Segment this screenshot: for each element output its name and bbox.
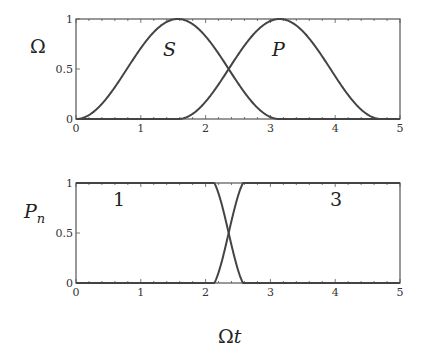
curve-P xyxy=(76,19,400,119)
y-tick-label: 0 xyxy=(66,113,73,126)
y-tick-label: 0 xyxy=(66,277,73,290)
y-tick-label: 0.5 xyxy=(56,227,74,240)
y-tick-label: 0.5 xyxy=(56,63,74,76)
x-axis-label: Ωt xyxy=(218,325,242,347)
bottom-y-axis-label: Pn xyxy=(23,200,45,226)
annotation-1: 1 xyxy=(113,188,125,210)
x-tick-label: 5 xyxy=(397,122,404,135)
top-plot-frame xyxy=(76,19,400,119)
annotation-3: 3 xyxy=(330,188,342,210)
x-tick-label: 5 xyxy=(397,286,404,299)
bottom-panel: 012345 10.50 Pn 1 3 Ωt xyxy=(23,177,404,347)
x-axis-label-omega: Ω xyxy=(218,325,234,347)
x-tick-label: 3 xyxy=(267,286,274,299)
x-axis-label-t: t xyxy=(234,325,242,347)
top-panel: 012345 10.50 Ω S P xyxy=(30,13,404,135)
figure: 012345 10.50 Ω S P 012345 10.50 Pn 1 3 Ω… xyxy=(0,0,428,363)
annotation-S: S xyxy=(163,38,176,60)
curve-S xyxy=(76,19,400,119)
x-tick-label: 3 xyxy=(267,122,274,135)
x-tick-label: 1 xyxy=(137,122,144,135)
y-tick-label: 1 xyxy=(66,177,73,190)
bottom-y-axis-label-sub: n xyxy=(37,211,45,226)
x-tick-label: 4 xyxy=(332,286,339,299)
x-tick-label: 2 xyxy=(202,122,209,135)
x-tick-label: 1 xyxy=(137,286,144,299)
annotation-P: P xyxy=(271,38,286,60)
x-tick-label: 0 xyxy=(73,122,80,135)
top-y-axis-label: Ω xyxy=(30,35,46,57)
x-tick-label: 2 xyxy=(202,286,209,299)
x-tick-label: 0 xyxy=(73,286,80,299)
bottom-y-axis-label-main: P xyxy=(23,200,38,222)
y-tick-label: 1 xyxy=(66,13,73,26)
x-tick-label: 4 xyxy=(332,122,339,135)
